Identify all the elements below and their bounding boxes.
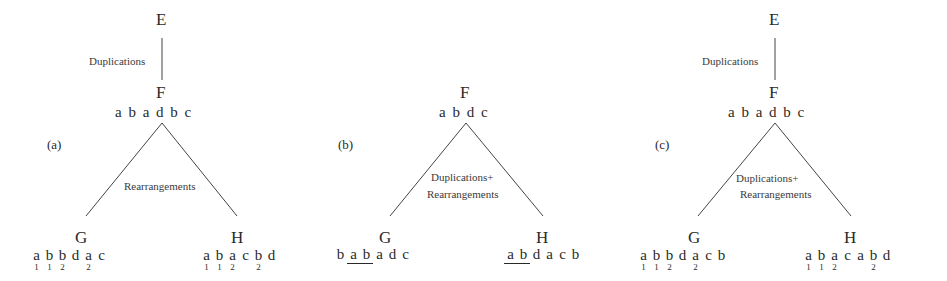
node-g: G <box>688 228 700 248</box>
gene: b2 <box>252 247 265 264</box>
gene: b1 <box>213 247 226 264</box>
gene: d <box>676 247 689 264</box>
node-f: F <box>156 83 165 103</box>
g-sequence: a1b1b2da2c <box>30 247 108 264</box>
gene: c <box>95 247 108 264</box>
ancestor-sequence: a b a d b c <box>115 104 191 121</box>
gene: a <box>373 246 386 263</box>
gene: d <box>880 247 893 264</box>
node-g: G <box>75 228 87 248</box>
gene: b1 <box>650 247 663 264</box>
gene: a1 <box>200 247 213 264</box>
gene: a1 <box>637 247 650 264</box>
ancestor-sequence: a b d c <box>439 104 488 121</box>
h-sequence: a1b1a2cab2d <box>802 247 893 264</box>
gene: b1 <box>815 247 828 264</box>
edge-f-h-b <box>466 123 543 216</box>
node-h: H <box>844 228 856 248</box>
gene: a1 <box>802 247 815 264</box>
gene: c <box>702 247 715 264</box>
gene: b <box>334 246 347 263</box>
gene: d <box>265 247 278 264</box>
node-f: F <box>460 83 469 103</box>
gene: b2 <box>867 247 880 264</box>
ancestor-sequence: a b a d b c <box>728 104 804 121</box>
gene: d <box>69 247 82 264</box>
node-e: E <box>156 10 166 30</box>
g-sequence: a1b1b2da2cb <box>637 247 728 264</box>
split-label: Rearrangements <box>124 180 195 192</box>
gene: b <box>360 246 373 264</box>
gene: c <box>239 247 252 264</box>
gene: a <box>504 246 517 264</box>
gene-copy-index: 2 <box>663 262 676 272</box>
gene: c <box>399 246 412 263</box>
split-label-line2: Rearrangements <box>740 188 811 200</box>
gene-copy-index: 2 <box>82 262 95 272</box>
tree-edges <box>0 0 947 281</box>
gene: b2 <box>56 247 69 264</box>
panel-label: (c) <box>655 137 669 153</box>
gene: a <box>347 246 360 264</box>
edge-f-g-b <box>390 123 466 216</box>
h-sequence: abdacb <box>504 246 582 264</box>
edge-label-duplications: Duplications <box>702 55 758 67</box>
gene: a2 <box>828 247 841 264</box>
gene-copy-index: 1 <box>650 262 663 272</box>
gene-copy-index: 2 <box>56 262 69 272</box>
edge-label-duplications: Duplications <box>89 55 145 67</box>
gene: b <box>715 247 728 264</box>
gene: a2 <box>226 247 239 264</box>
split-label-line1: Duplications+ <box>431 171 493 183</box>
gene: b <box>517 246 530 264</box>
gene-copy-index: 1 <box>43 262 56 272</box>
node-h: H <box>536 228 548 248</box>
node-h: H <box>231 228 243 248</box>
split-label-line1: Duplications+ <box>736 172 798 184</box>
gene: c <box>556 246 569 263</box>
gene-copy-index: 2 <box>226 262 239 272</box>
gene-copy-index: 1 <box>213 262 226 272</box>
panel-label: (a) <box>47 137 61 153</box>
edge-f-g-c <box>698 123 775 216</box>
gene-copy-index: 1 <box>30 262 43 272</box>
gene: d <box>386 246 399 263</box>
edge-f-h-c <box>775 123 851 216</box>
gene: b1 <box>43 247 56 264</box>
gene-copy-index: 2 <box>252 262 265 272</box>
edge-f-g-a <box>86 123 162 216</box>
gene-copy-index: 1 <box>815 262 828 272</box>
gene-copy-index: 1 <box>802 262 815 272</box>
gene: c <box>841 247 854 264</box>
h-sequence: a1b1a2cb2d <box>200 247 278 264</box>
gene: b <box>569 246 582 263</box>
gene: a <box>854 247 867 264</box>
gene-copy-index: 2 <box>867 262 880 272</box>
node-f: F <box>769 83 778 103</box>
panel-label: (b) <box>338 137 353 153</box>
gene: a <box>543 246 556 263</box>
split-label-line2: Rearrangements <box>427 188 498 200</box>
gene: d <box>530 246 543 263</box>
gene: a2 <box>82 247 95 264</box>
node-e: E <box>769 10 779 30</box>
gene: a1 <box>30 247 43 264</box>
gene-copy-index: 1 <box>637 262 650 272</box>
node-g: G <box>379 228 391 248</box>
gene: b2 <box>663 247 676 264</box>
edge-f-h-a <box>162 123 237 216</box>
gene-copy-index: 2 <box>689 262 702 272</box>
gene: a2 <box>689 247 702 264</box>
gene-copy-index: 2 <box>828 262 841 272</box>
gene-copy-index: 1 <box>200 262 213 272</box>
g-sequence: babadc <box>334 246 412 264</box>
